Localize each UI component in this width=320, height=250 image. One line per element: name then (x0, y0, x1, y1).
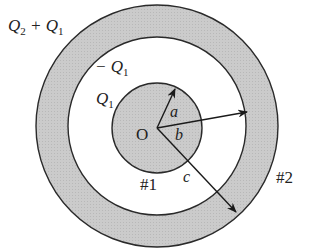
conductor-1-label: #1 (140, 175, 157, 194)
origin-label: O (136, 125, 148, 144)
diagram-canvas: Q2 + Q1 − Q1 Q1 O a b c #1 #2 (0, 0, 320, 250)
conductor-2-label: #2 (276, 168, 293, 187)
radius-c-label: c (183, 168, 190, 185)
outer-charge-label: Q2 + Q1 (8, 16, 64, 37)
radius-b-label: b (175, 126, 183, 143)
radius-a-label: a (170, 103, 178, 120)
